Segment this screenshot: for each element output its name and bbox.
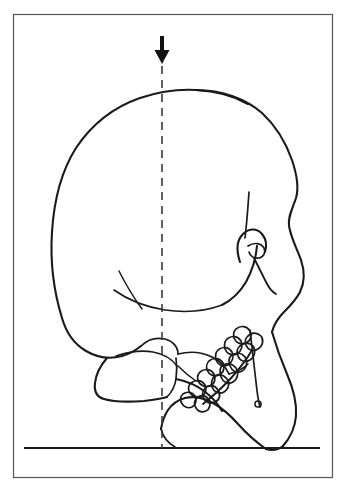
skull-line-drawing [0,0,351,499]
canvas-background [0,0,351,499]
figure-canvas: Inverted lateral skull tracing with vert… [0,0,351,499]
